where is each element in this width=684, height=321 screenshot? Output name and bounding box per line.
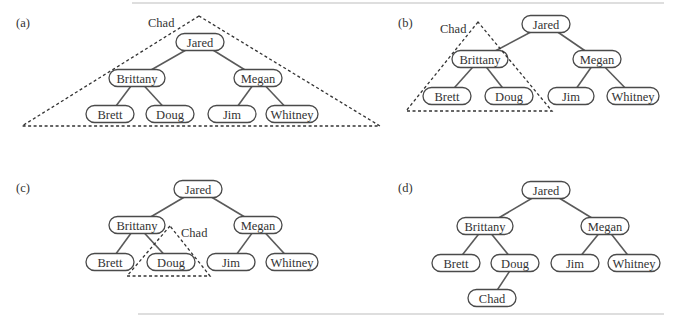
tree-node-whitney: Whitney	[608, 255, 660, 272]
tree-node-doug: Doug	[485, 88, 533, 105]
tree-node-brittany: Brittany	[109, 70, 165, 87]
panel-c: (c)JaredBrittanyMeganBrettDougJimWhitney…	[16, 181, 318, 277]
node-label: Megan	[580, 53, 615, 67]
node-label: Doug	[156, 108, 185, 122]
node-label: Brittany	[465, 220, 507, 234]
dashed-triangle	[22, 16, 380, 126]
node-label: Whitney	[612, 257, 656, 271]
tree-node-megan: Megan	[573, 51, 621, 68]
node-label: Brittany	[117, 72, 159, 86]
node-label: Whitney	[270, 256, 314, 270]
tree-node-jim: Jim	[208, 106, 256, 123]
node-label: Brittany	[117, 219, 159, 233]
node-label: Brittany	[460, 53, 502, 67]
node-label: Whitney	[270, 108, 314, 122]
tree-node-jared: Jared	[174, 181, 222, 198]
node-label: Brett	[444, 257, 470, 271]
tree-node-brett: Brett	[423, 88, 471, 105]
node-label: Brett	[435, 90, 461, 104]
tree-node-jim: Jim	[551, 255, 599, 272]
panel-b: (b)JaredBrittanyMeganBrettDougJimWhitney…	[398, 16, 659, 112]
tree-node-megan: Megan	[234, 217, 282, 234]
node-label: Megan	[241, 72, 276, 86]
tree-node-megan: Megan	[581, 218, 629, 235]
tree-node-jared: Jared	[522, 16, 570, 33]
tree-node-megan: Megan	[234, 70, 282, 87]
tree-node-doug: Doug	[146, 106, 194, 123]
node-label: Whitney	[611, 90, 655, 104]
triangle-label: Chad	[148, 16, 175, 30]
triangle-label: Chad	[181, 226, 208, 240]
triangle-label: Chad	[440, 22, 467, 36]
node-label: Jared	[185, 183, 212, 197]
node-label: Brett	[98, 256, 124, 270]
tree-node-jim: Jim	[548, 88, 594, 105]
panel-a: (a)JaredBrittanyMeganBrettDougJimWhitney…	[16, 16, 380, 126]
node-label: Doug	[501, 257, 530, 271]
tree-node-jared: Jared	[522, 182, 570, 199]
panel-label: (b)	[398, 16, 413, 30]
tree-node-chad: Chad	[468, 290, 516, 307]
node-label: Jim	[566, 257, 584, 271]
tree-node-whitney: Whitney	[266, 106, 318, 123]
panel-label: (a)	[16, 16, 30, 30]
tree-node-doug: Doug	[491, 255, 539, 272]
panel-label: (c)	[16, 181, 30, 195]
node-label: Jim	[222, 256, 240, 270]
node-label: Megan	[588, 220, 623, 234]
tree-node-brittany: Brittany	[109, 217, 165, 234]
node-label: Jared	[533, 18, 560, 32]
node-label: Jim	[562, 90, 580, 104]
tree-node-brittany: Brittany	[457, 218, 513, 235]
node-label: Jared	[187, 36, 214, 50]
tree-node-brett: Brett	[432, 255, 480, 272]
node-label: Jared	[533, 184, 560, 198]
tree-node-jim: Jim	[207, 254, 255, 271]
node-label: Brett	[98, 108, 124, 122]
node-label: Doug	[495, 90, 524, 104]
node-label: Jim	[223, 108, 241, 122]
tree-node-whitney: Whitney	[266, 254, 318, 271]
tree-node-whitney: Whitney	[607, 88, 659, 105]
edges	[456, 190, 634, 298]
bst-insertion-diagram: (a)JaredBrittanyMeganBrettDougJimWhitney…	[0, 0, 684, 321]
tree-node-brett: Brett	[86, 254, 134, 271]
tree-node-brittany: Brittany	[452, 51, 508, 68]
subtree-triangle: Chad	[22, 16, 380, 126]
tree-node-jared: Jared	[176, 34, 224, 51]
tree-node-brett: Brett	[86, 106, 134, 123]
node-label: Chad	[479, 292, 506, 306]
panel-d: (d)JaredBrittanyMeganBrettDougJimWhitney…	[398, 181, 660, 307]
node-label: Megan	[241, 219, 276, 233]
tree-node-doug: Doug	[147, 254, 195, 271]
node-label: Doug	[157, 256, 186, 270]
panel-label: (d)	[398, 181, 413, 195]
